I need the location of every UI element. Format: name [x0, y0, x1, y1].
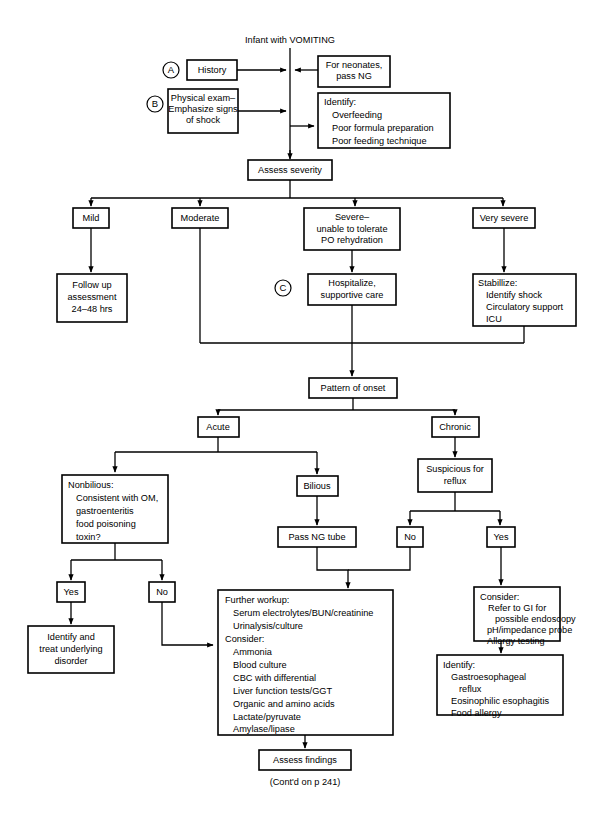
page-title: Infant with VOMITING [245, 35, 335, 45]
node-identify-treat-line1: Identify and [47, 632, 95, 642]
node-moderate-label: Moderate [181, 213, 220, 223]
node-no-right-label: No [404, 532, 416, 542]
marker-b-letter: B [152, 98, 158, 109]
node-further-workup-line5: Ammonia [233, 647, 273, 657]
node-hospitalize-line1: Hospitalize, [328, 278, 376, 288]
node-assess-severity-label: Assess severity [258, 165, 322, 175]
node-for-neonates-line2: pass NG [336, 71, 372, 81]
continued-note: (Cont'd on p 241) [270, 777, 341, 787]
node-stabilize-line2: Identify shock [486, 290, 543, 300]
node-for-neonates-line1: For neonates, [326, 60, 383, 70]
node-nonbilious-line2: Consistent with OM, [76, 493, 158, 503]
node-further-workup-line6: Blood culture [233, 660, 287, 670]
node-no-left-label: No [156, 587, 168, 597]
node-identify-reflux-line3: reflux [459, 684, 482, 694]
node-identify-reflux-line4: Eosinophilic esophagitis [451, 696, 549, 706]
node-further-workup-line4: Consider: [225, 634, 264, 644]
node-pass-ng-tube-label: Pass NG tube [288, 532, 345, 542]
node-identify-reflux-line5: Food allergy [451, 708, 502, 718]
node-further-workup-line3: Urinalysis/culture [233, 621, 303, 631]
node-mild-label: Mild [83, 213, 100, 223]
node-identify-feeding-line4: Poor feeding technique [332, 136, 427, 146]
node-severe-line3: PO rehydration [321, 235, 383, 245]
node-identify-feeding-line2: Overfeeding [332, 110, 382, 120]
node-consider-gi-line2: Refer to GI for [488, 603, 546, 613]
edge-no-left-to-workup [162, 602, 213, 645]
node-very-severe-label: Very severe [480, 213, 529, 223]
node-identify-treat-line2: treat underlying [39, 644, 102, 654]
node-nonbilious-line3: gastroenteritis [76, 506, 134, 516]
node-identify-reflux-line1: Identify: [443, 660, 475, 670]
node-physical-exam-line2: Emphasize signs [168, 104, 238, 114]
node-chronic-label: Chronic [439, 422, 471, 432]
node-further-workup-line8: Liver function tests/GGT [233, 686, 332, 696]
node-further-workup-line9: Organic and amino acids [233, 699, 335, 709]
node-identify-treat-line3: disorder [54, 656, 87, 666]
edge-passng-to-workup [317, 547, 348, 588]
node-suspicious-reflux-line2: reflux [444, 476, 467, 486]
node-further-workup-line7: CBC with differential [233, 673, 316, 683]
node-hospitalize-line2: supportive care [321, 290, 384, 300]
node-yes-left-label: Yes [64, 587, 79, 597]
flowchart-canvas: Infant with VOMITING A History For neona… [0, 0, 593, 821]
edge-no-right-to-workup [348, 547, 410, 570]
node-suspicious-reflux-line1: Suspicious for [426, 464, 484, 474]
node-stabilize-line4: ICU [486, 314, 502, 324]
node-follow-up-line3: 24–48 hrs [72, 304, 113, 314]
node-acute-label: Acute [206, 422, 230, 432]
node-further-workup-line10: Lactate/pyruvate [233, 712, 301, 722]
node-follow-up-line2: assessment [67, 292, 116, 302]
node-identify-feeding-line1: Identify: [324, 97, 356, 107]
vomiting-algorithm-flowchart: Infant with VOMITING A History For neona… [0, 0, 593, 821]
node-history-label: History [198, 65, 227, 75]
node-further-workup-line2: Serum electrolytes/BUN/creatinine [233, 608, 373, 618]
node-pattern-of-onset-label: Pattern of onset [321, 383, 386, 393]
node-further-workup-line11: Amylase/lipase [233, 724, 295, 734]
node-consider-gi-line4: pH/impedance probe [487, 625, 572, 635]
node-stabilize-line3: Circulatory support [486, 302, 564, 312]
node-consider-gi-line3: possible endoscopy [495, 614, 576, 624]
marker-c-letter: C [280, 282, 287, 293]
node-consider-gi-line1: Consider: [480, 592, 519, 602]
node-yes-right-label: Yes [494, 532, 509, 542]
node-nonbilious-line4: food poisoning [76, 519, 136, 529]
node-further-workup-line1: Further workup: [225, 595, 289, 605]
node-physical-exam-line3: of shock [186, 115, 221, 125]
node-severe-line2: unable to tolerate [316, 224, 387, 234]
marker-a-letter: A [168, 64, 175, 75]
node-bilious-label: Bilious [303, 481, 330, 491]
node-physical-exam-line1: Physical exam– [171, 93, 236, 103]
node-consider-gi-line5: Allergy testing [487, 636, 545, 646]
node-identify-feeding-line3: Poor formula preparation [332, 123, 434, 133]
node-nonbilious-line5: toxin? [76, 532, 101, 542]
node-assess-findings-label: Assess findings [273, 755, 337, 765]
node-severe-line1: Severe– [335, 212, 370, 222]
node-stabilize-line1: Stabillize: [478, 278, 517, 288]
node-identify-reflux-line2: Gastroesophageal [451, 672, 526, 682]
node-follow-up-line1: Follow up [72, 280, 111, 290]
node-nonbilious-line1: Nonbilious: [68, 480, 113, 490]
